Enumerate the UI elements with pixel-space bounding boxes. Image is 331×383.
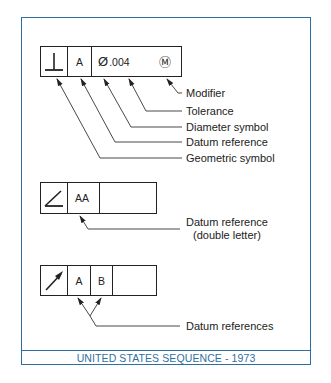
modifier-label: Modifier xyxy=(186,87,225,99)
datum-reference-double-label: Datum reference xyxy=(186,216,268,228)
diameter-symbol-label: Diameter symbol xyxy=(186,121,269,133)
datum-references-label: Datum references xyxy=(186,320,273,332)
double-letter-label: (double letter) xyxy=(193,229,261,241)
datum-reference-label: Datum reference xyxy=(186,136,268,148)
leader-lines xyxy=(0,0,331,383)
tolerance-label: Tolerance xyxy=(186,105,234,117)
geometric-symbol-label: Geometric symbol xyxy=(186,152,275,164)
